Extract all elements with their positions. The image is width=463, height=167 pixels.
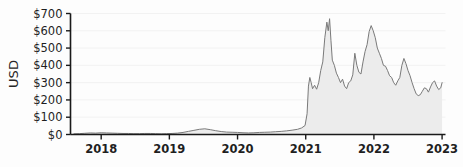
y-tick-label-500: $500: [33, 41, 62, 55]
x-tick-label-2018: 2018: [85, 142, 117, 156]
y-tick-label-400: $400: [33, 58, 62, 72]
x-tick-label-2023: 2023: [426, 142, 458, 156]
y-tick-label-0: $0: [48, 128, 63, 142]
chart-canvas: $0$100$200$300$400$500$600$700 201820192…: [0, 0, 463, 167]
y-tick-label-200: $200: [33, 93, 62, 107]
x-tick-label-2019: 2019: [153, 142, 185, 156]
x-tick-label-2021: 2021: [290, 142, 322, 156]
x-tick-label-2022: 2022: [358, 142, 390, 156]
y-tick-label-300: $300: [33, 76, 62, 90]
y-axis-title: USD: [6, 60, 21, 88]
x-tick-label-2020: 2020: [222, 142, 254, 156]
usd-price-area-chart: $0$100$200$300$400$500$600$700 201820192…: [0, 0, 463, 167]
y-tick-label-600: $600: [33, 24, 62, 38]
y-tick-label-100: $100: [33, 110, 62, 124]
y-tick-label-700: $700: [33, 7, 62, 21]
